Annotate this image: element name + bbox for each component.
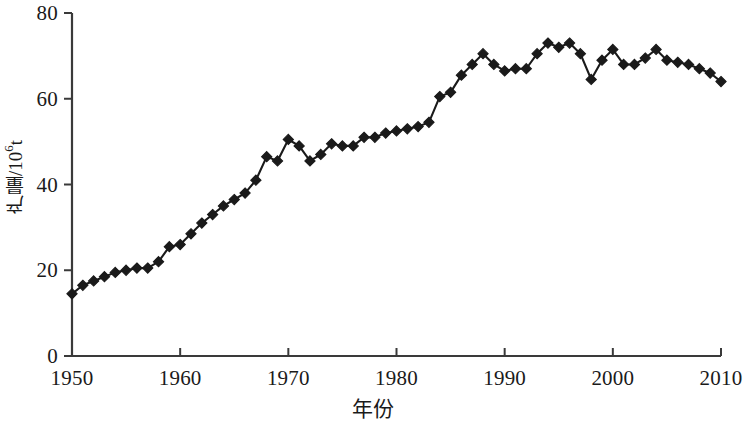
line-chart-plot	[0, 0, 745, 424]
data-point-marker	[229, 194, 239, 204]
data-point-marker	[381, 128, 391, 138]
data-point-marker	[391, 126, 401, 136]
data-point-marker	[435, 92, 445, 102]
data-point-marker	[510, 64, 520, 74]
data-point-marker	[554, 42, 564, 52]
x-tick-label: 1980	[375, 368, 418, 389]
y-axis-title-prefix: 产量/10	[5, 152, 26, 214]
data-point-marker	[500, 66, 510, 76]
data-point-marker	[424, 117, 434, 127]
y-tick-label: 60	[0, 88, 58, 109]
data-point-marker	[110, 267, 120, 277]
data-point-marker	[694, 64, 704, 74]
data-point-marker	[262, 152, 272, 162]
x-tick-label: 1960	[159, 368, 202, 389]
data-point-marker	[673, 57, 683, 67]
data-point-marker	[683, 59, 693, 69]
data-point-marker	[629, 59, 639, 69]
data-point-marker	[132, 263, 142, 273]
data-point-marker	[402, 124, 412, 134]
y-axis-title-suffix: t	[5, 140, 26, 145]
data-point-marker	[89, 276, 99, 286]
data-point-marker	[445, 87, 455, 97]
y-tick-label: 20	[0, 260, 58, 281]
y-tick-label: 0	[0, 346, 58, 367]
x-tick-label: 1970	[267, 368, 310, 389]
production-series-line	[72, 43, 721, 294]
x-tick-label: 2010	[700, 368, 743, 389]
data-point-marker	[99, 272, 109, 282]
x-tick-label: 1950	[51, 368, 94, 389]
data-point-marker	[337, 141, 347, 151]
data-point-marker	[272, 156, 282, 166]
data-point-marker	[283, 134, 293, 144]
x-tick-label: 2000	[591, 368, 634, 389]
y-tick-label: 80	[0, 3, 58, 24]
data-point-marker	[586, 74, 596, 84]
data-point-marker	[413, 122, 423, 132]
data-point-marker	[121, 265, 131, 275]
y-axis-title-exponent: 6	[1, 145, 16, 152]
chart-figure: 020406080 1950196019701980199020002010 产…	[0, 0, 745, 424]
y-axis-ticks	[64, 13, 72, 356]
data-point-marker	[370, 132, 380, 142]
production-series-markers	[67, 38, 726, 299]
x-tick-label: 1990	[483, 368, 526, 389]
data-point-marker	[143, 263, 153, 273]
x-axis-ticks	[72, 348, 721, 356]
x-axis-title: 年份	[0, 392, 745, 422]
y-axis-title: 产量/106t	[2, 140, 30, 214]
